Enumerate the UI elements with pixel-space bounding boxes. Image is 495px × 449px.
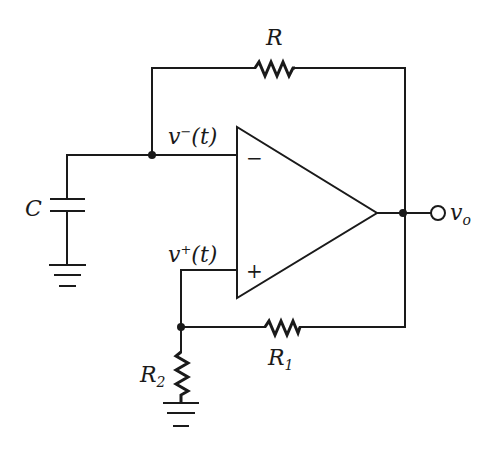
output-terminal <box>431 206 445 220</box>
junction-noninverting <box>177 323 185 331</box>
resistor-r2-label: R2 <box>139 362 166 390</box>
capacitor-c: C <box>25 196 84 265</box>
resistor-r1: R1 <box>265 321 300 373</box>
opamp-icon: − + <box>237 127 377 298</box>
junction-inverting <box>148 151 156 159</box>
circuit-diagram: R v−(t) C − + vo v+(t) R1 R2 <box>0 0 495 449</box>
resistor-r1-label: R1 <box>267 345 294 373</box>
label-v-minus: v−(t) <box>168 124 217 149</box>
resistor-r2: R2 <box>139 352 188 403</box>
opamp-inverting-sign: − <box>246 146 263 170</box>
wire-noninverting-input <box>181 270 237 352</box>
opamp-noninverting-sign: + <box>246 259 263 283</box>
resistor-r: R <box>255 25 295 76</box>
label-v-plus: v+(t) <box>168 242 217 267</box>
capacitor-label: C <box>25 196 42 221</box>
ground-icon <box>164 403 198 426</box>
wire-inverting-input <box>67 155 237 199</box>
feedback-path-top <box>152 68 405 327</box>
junction-output <box>399 209 407 217</box>
ground-icon <box>50 265 85 286</box>
label-vo: vo <box>450 200 471 228</box>
resistor-r-label: R <box>265 25 283 50</box>
